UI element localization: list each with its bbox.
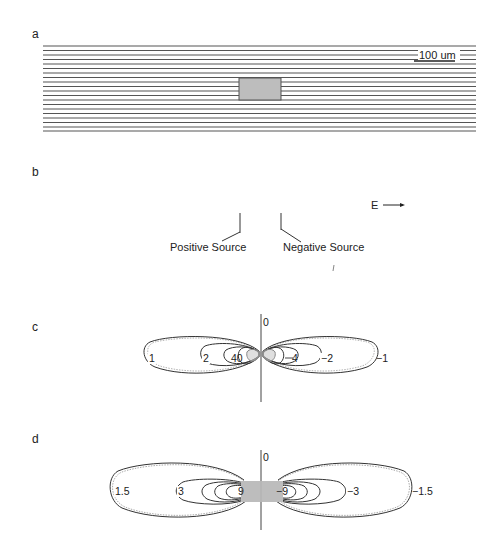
contour-label-40: 40	[231, 352, 243, 364]
sample-rectangle	[239, 78, 281, 100]
contour-label-3: 3	[178, 485, 184, 497]
stray-mark	[333, 265, 334, 271]
contour-label-9: 9	[238, 485, 244, 497]
positive-source-label: Positive Source	[170, 241, 246, 253]
contour-label-neg4: 4	[292, 352, 298, 364]
figure-canvas: a 100 um b E	[0, 0, 498, 543]
contour-label-neg1-5: −1.5	[412, 485, 433, 497]
negative-source-label: Negative Source	[283, 241, 364, 253]
panel-d-label: d	[32, 432, 39, 446]
contour-label-2: 2	[203, 352, 209, 364]
field-arrow-icon	[383, 203, 405, 207]
panel-a: a 100 um	[32, 27, 476, 131]
panel-b: b E Positive Source Negative Source	[32, 165, 405, 271]
negative-contours	[276, 463, 412, 517]
panel-b-label: b	[32, 165, 39, 179]
contour-label-1: 1	[149, 352, 155, 364]
positive-source-pointer	[222, 213, 240, 241]
contour-label-1-5: 1.5	[115, 485, 130, 497]
panel-d: d 0 1.5 3 9 −9 −3 −1.5	[32, 432, 433, 530]
contour-label-neg3: −3	[347, 485, 359, 497]
contour-label-neg9: −9	[276, 485, 288, 497]
panel-c: c 0 1 2 40 4 −2 −1	[32, 314, 388, 402]
negative-source-pointer	[281, 213, 301, 242]
field-direction-label: E	[371, 199, 378, 211]
contour-label-neg2: −2	[321, 352, 333, 364]
contour-label-0: 0	[263, 451, 269, 463]
panel-c-label: c	[32, 320, 38, 334]
contour-label-neg1: −1	[376, 352, 388, 364]
scale-bar-label: 100 um	[419, 49, 456, 61]
contour-label-0: 0	[263, 316, 269, 328]
panel-a-label: a	[32, 27, 39, 41]
